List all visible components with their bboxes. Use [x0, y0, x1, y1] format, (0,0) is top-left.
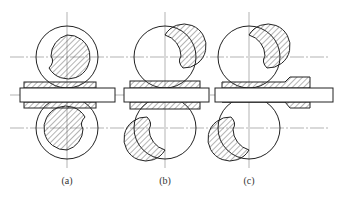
panel-c-label: (c) — [234, 175, 264, 186]
panel-a — [20, 12, 115, 168]
panel-b — [124, 12, 209, 168]
roller-diagram — [0, 0, 337, 200]
panel-b-label: (b) — [150, 175, 180, 186]
panel-c — [208, 12, 333, 168]
panel-a-label: (a) — [52, 175, 82, 186]
